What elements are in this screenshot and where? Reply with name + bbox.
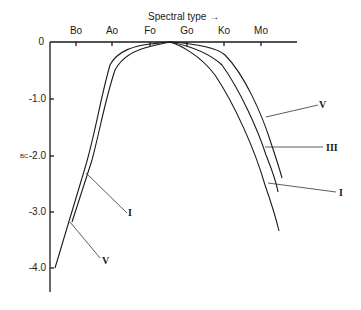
x-tick-label-mo: Mo — [254, 25, 268, 36]
curve-class-v — [55, 42, 282, 268]
label-left-v: V — [102, 255, 110, 266]
label-left-i: I — [128, 207, 132, 218]
y-axis-label: BC — [20, 153, 29, 159]
label-right-i: I — [339, 187, 343, 198]
bolometric-correction-chart: Spectral type → Bo Ao Fo Go Ko Mo 0 -1.0… — [0, 0, 361, 310]
y-tick-label-1: -1.0 — [29, 93, 47, 104]
x-tick-label-go: Go — [180, 25, 194, 36]
y-tick-label-2: -2.0 — [29, 150, 47, 161]
leader-right-v — [266, 105, 318, 117]
leader-left-i — [86, 173, 127, 213]
y-tick-label-0: 0 — [38, 36, 44, 47]
x-tick-label-ko: Ko — [218, 25, 231, 36]
x-tick-label-ao: Ao — [106, 25, 119, 36]
curve-class-i — [72, 42, 279, 231]
label-right-v: V — [319, 99, 327, 110]
y-tick-label-3: -3.0 — [29, 206, 47, 217]
y-tick-label-4: -4.0 — [29, 262, 47, 273]
x-axis-title: Spectral type → — [148, 11, 219, 22]
x-tick-label-fo: Fo — [144, 25, 156, 36]
label-right-iii: III — [326, 142, 338, 153]
x-tick-label-bo: Bo — [70, 25, 83, 36]
leader-left-v — [70, 222, 100, 258]
